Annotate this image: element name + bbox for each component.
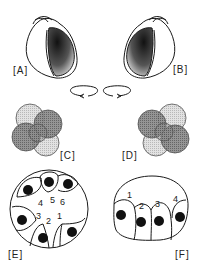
cell-number: 4 [173,194,178,204]
clockwise-arrow-icon [70,86,97,98]
panel-b-shell [124,17,175,79]
figure-canvas: 1 2 3 4 5 6 1 2 3 4 [0,0,201,267]
panel-label-f: [F] [175,249,190,260]
counterclockwise-arrow-icon [103,86,130,98]
panel-f-section [114,176,188,240]
cell-number: 6 [60,197,65,207]
panel-d-embryo [138,104,189,156]
panel-a-shell [26,17,77,79]
cell-number: 1 [127,190,132,200]
cell-number: 2 [139,201,144,211]
panel-label-d: [D] [122,150,138,161]
cell-number: 1 [57,211,62,221]
cell-number: 2 [46,216,51,226]
cell-number: 3 [155,199,160,209]
panel-label-a: [A] [13,65,28,76]
panel-label-c: [C] [60,150,76,161]
panel-c-embryo [12,104,62,156]
panel-label-e: [E] [8,249,23,260]
cell-number: 5 [50,195,55,205]
cell-number: 4 [38,198,43,208]
panel-label-b: [B] [173,64,188,75]
cell-number: 3 [36,211,41,221]
